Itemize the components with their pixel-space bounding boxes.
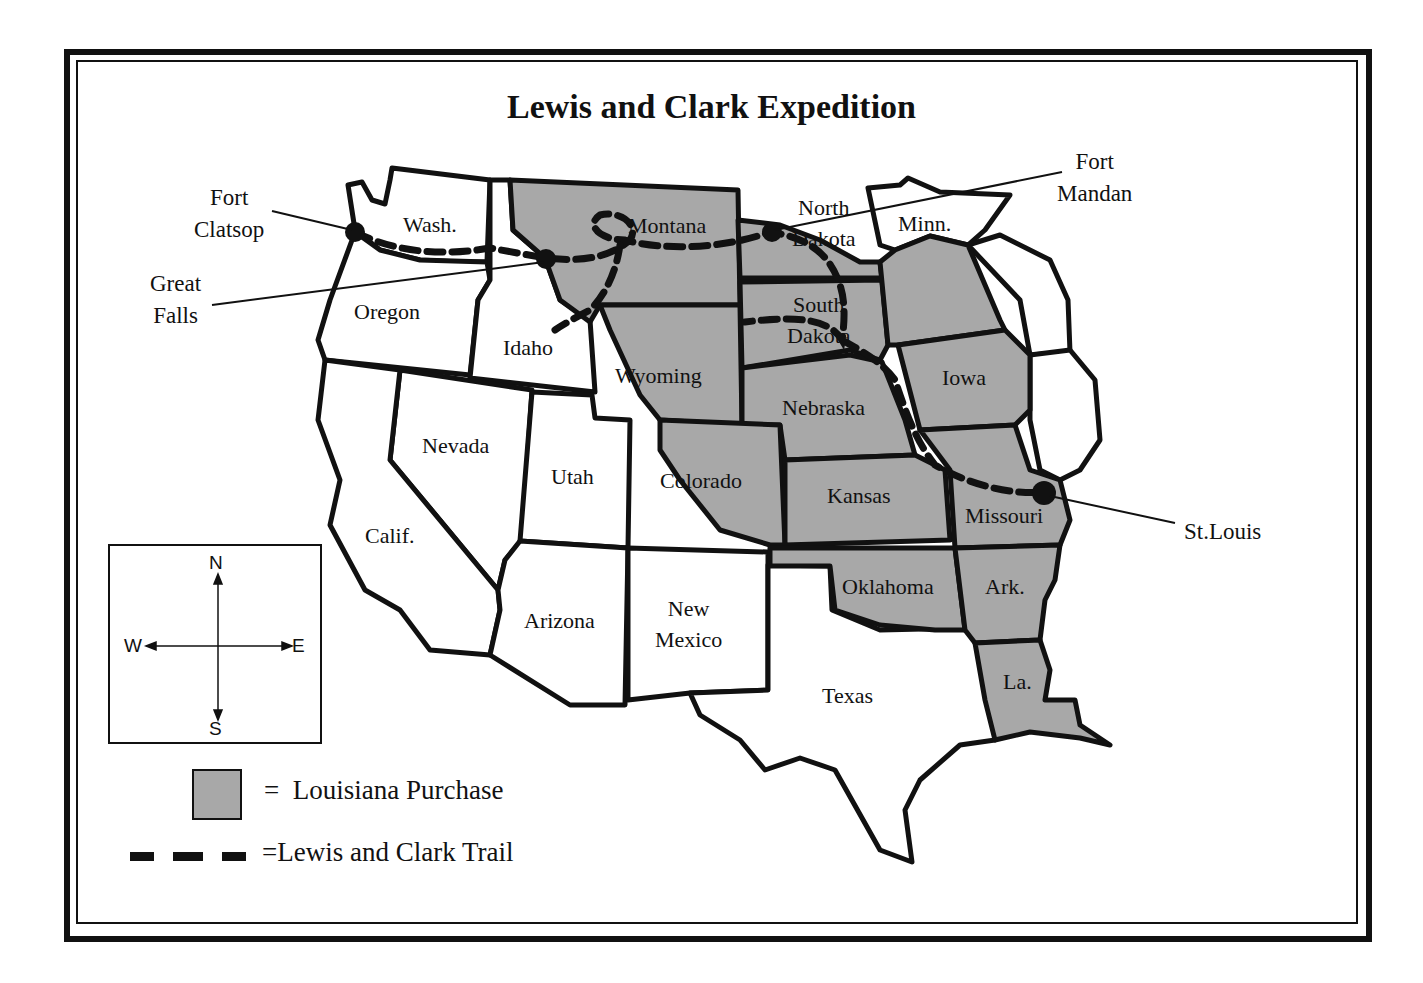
callout-great-falls-line1: Great <box>150 268 201 300</box>
legend-purchase: = Louisiana Purchase <box>264 775 503 806</box>
legend-trail-dash-3 <box>222 852 246 861</box>
callout-fort-clatsop: Fort Clatsop <box>194 182 264 246</box>
label-north-dakota-line2: Dakota <box>792 224 856 255</box>
legend-purchase-equals: = <box>264 775 279 805</box>
callout-st-louis-line1: St.Louis <box>1184 516 1261 548</box>
compass-east: E <box>292 635 305 657</box>
label-iowa: Iowa <box>942 362 986 394</box>
label-north-dakota-line1: North <box>792 193 856 224</box>
callout-great-falls-line2: Falls <box>150 300 201 332</box>
label-oregon: Oregon <box>354 296 420 328</box>
legend-purchase-label: Louisiana Purchase <box>293 775 504 805</box>
compass-north: N <box>209 552 223 574</box>
callout-fort-clatsop-line1: Fort <box>194 182 264 214</box>
region-illinois <box>1030 350 1100 480</box>
great-falls-marker <box>536 249 556 269</box>
label-idaho: Idaho <box>503 332 553 364</box>
compass-rose: N S W E <box>108 544 322 744</box>
fort-clatsop-leader <box>272 211 352 230</box>
label-arizona: Arizona <box>524 605 595 637</box>
callout-fort-clatsop-line2: Clatsop <box>194 214 264 246</box>
label-calif: Calif. <box>365 520 415 552</box>
callout-fort-mandan: Fort Mandan <box>1057 146 1132 210</box>
legend-purchase-swatch <box>192 769 242 820</box>
label-montana: Montana <box>628 210 706 242</box>
callout-st-louis: St.Louis <box>1184 516 1261 548</box>
label-texas: Texas <box>822 680 873 712</box>
legend-trail-equals: = <box>262 837 277 867</box>
fort-mandan-marker <box>762 222 782 242</box>
fort-clatsop-marker <box>345 222 365 242</box>
label-colorado: Colorado <box>660 465 742 497</box>
label-ark: Ark. <box>985 571 1025 603</box>
label-oklahoma: Oklahoma <box>842 571 934 603</box>
label-new-mexico: New Mexico <box>655 594 722 656</box>
label-new-mexico-line1: New <box>655 594 722 625</box>
compass-west: W <box>124 635 142 657</box>
label-new-mexico-line2: Mexico <box>655 625 722 656</box>
label-wash: Wash. <box>403 209 457 241</box>
label-kansas: Kansas <box>827 480 891 512</box>
callout-fort-mandan-line2: Mandan <box>1057 178 1132 210</box>
label-south-dakota-line2: Dakota <box>787 321 851 352</box>
label-north-dakota: North Dakota <box>792 193 856 255</box>
legend-trail-dash-2 <box>173 852 203 861</box>
legend-trail-label: Lewis and Clark Trail <box>277 837 513 867</box>
callout-great-falls: Great Falls <box>150 268 201 332</box>
label-minn: Minn. <box>898 208 951 240</box>
label-south-dakota: South Dakota <box>787 290 851 352</box>
label-missouri: Missouri <box>965 500 1043 532</box>
legend-trail: =Lewis and Clark Trail <box>262 837 513 868</box>
label-utah: Utah <box>551 461 594 493</box>
compass-south: S <box>209 718 222 740</box>
state-la <box>975 640 1110 745</box>
legend-trail-dash-1 <box>130 852 154 861</box>
label-nevada: Nevada <box>422 430 489 462</box>
label-wyoming: Wyoming <box>615 360 702 392</box>
callout-fort-mandan-line1: Fort <box>1057 146 1132 178</box>
label-la: La. <box>1003 666 1032 698</box>
label-south-dakota-line1: South <box>787 290 851 321</box>
label-nebraska: Nebraska <box>782 392 865 424</box>
